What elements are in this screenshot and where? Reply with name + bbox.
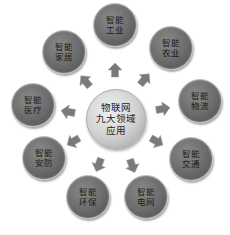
center-node: 物联网 九大领域 应用 <box>86 89 146 149</box>
domain-node-label-line: 交通 <box>182 159 200 169</box>
domain-node-logistics: 智能物流 <box>178 79 222 123</box>
domain-node-label-line: 智能 <box>55 42 73 52</box>
domain-node-label-line: 安防 <box>35 158 53 168</box>
domain-node-industry: 智能工业 <box>93 3 137 47</box>
domain-node-label-line: 智能 <box>35 148 53 158</box>
domain-node-label-line: 智能 <box>191 91 209 101</box>
center-line-1: 物联网 <box>101 102 131 114</box>
domain-node-medical: 智能医疗 <box>11 83 55 127</box>
center-line-3: 应用 <box>106 125 126 137</box>
domain-node-label-line: 智能 <box>79 187 97 197</box>
domain-node-label-line: 智能 <box>182 149 200 159</box>
domain-node-label-line: 环保 <box>79 197 97 207</box>
domain-node-label-line: 家居 <box>55 52 73 62</box>
center-line-2: 九大领域 <box>96 113 136 125</box>
iot-nine-domains-diagram: 物联网 九大领域 应用 智能工业智能农业智能物流智能交通智能电网智能环保智能安防… <box>0 0 230 235</box>
domain-node-label-line: 智能 <box>24 95 42 105</box>
domain-node-label-line: 医疗 <box>24 105 42 115</box>
domain-node-label-line: 电网 <box>137 197 155 207</box>
domain-node-label-line: 农业 <box>162 48 180 58</box>
domain-node-security: 智能安防 <box>22 136 66 180</box>
domain-node-label-line: 智能 <box>106 15 124 25</box>
domain-node-label-line: 物流 <box>191 101 209 111</box>
domain-node-grid: 智能电网 <box>124 175 168 219</box>
domain-node-label-line: 工业 <box>106 25 124 35</box>
domain-node-label-line: 智能 <box>137 187 155 197</box>
domain-node-agriculture: 智能农业 <box>149 26 193 70</box>
domain-node-environment: 智能环保 <box>66 175 110 219</box>
domain-node-label-line: 智能 <box>162 38 180 48</box>
domain-node-home: 智能家居 <box>42 30 86 74</box>
domain-node-transport: 智能交通 <box>169 137 213 181</box>
